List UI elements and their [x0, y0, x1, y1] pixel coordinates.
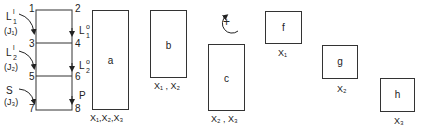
stream-P: P [79, 91, 86, 101]
block-f-vars: X₁ [278, 48, 287, 58]
node-8: 8 [75, 104, 81, 114]
plus-operator-icon: + [223, 17, 230, 27]
block-f: f [265, 11, 302, 44]
block-a-vars: X₁,X₂,X₃ [90, 113, 123, 123]
block-h: h [380, 78, 415, 112]
node-7: 7 [29, 104, 35, 114]
node-3: 3 [29, 39, 35, 49]
node-5: 5 [29, 72, 35, 82]
node-6: 6 [75, 72, 81, 82]
block-c-vars: X₂ , X₃ [211, 114, 238, 124]
block-b: b [150, 10, 187, 78]
node-2: 2 [75, 4, 81, 14]
block-g-vars: X₂ [337, 84, 347, 94]
block-c: c [208, 44, 245, 111]
block-h-vars: X₃ [394, 116, 404, 126]
node-1: 1 [29, 4, 35, 14]
node-4: 4 [75, 39, 81, 49]
block-a: a [92, 10, 129, 110]
block-g: g [322, 45, 358, 79]
block-b-vars: X₁ , X₂ [154, 81, 180, 91]
